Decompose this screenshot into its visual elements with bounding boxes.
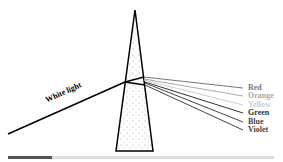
spectrum-label-violet: Violet <box>248 126 268 134</box>
progress-bar[interactable] <box>8 156 274 159</box>
spectrum-label-orange: Orange <box>248 92 274 100</box>
spectrum-label-green: Green <box>248 109 269 117</box>
progress-fill <box>8 156 52 159</box>
prism-diagram <box>0 0 283 162</box>
